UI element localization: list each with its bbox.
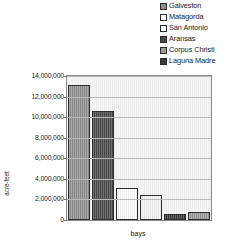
gridline bbox=[67, 117, 211, 118]
legend-swatch-icon bbox=[160, 14, 167, 21]
bar-texture bbox=[189, 213, 209, 219]
y-axis-tick-label: 10,000,000 bbox=[10, 113, 64, 120]
y-axis-tick-mark bbox=[64, 179, 67, 180]
gridline bbox=[67, 76, 211, 77]
legend-label: Galveston bbox=[169, 2, 201, 10]
gridline bbox=[67, 199, 211, 200]
bar[interactable] bbox=[92, 111, 114, 220]
legend-item[interactable]: San Antonio bbox=[160, 23, 239, 33]
y-axis-tick-mark bbox=[64, 97, 67, 98]
bar[interactable] bbox=[188, 212, 210, 220]
legend-label: Corpus Christi bbox=[169, 46, 214, 54]
y-axis-tick-mark bbox=[64, 220, 67, 221]
y-axis-tick-label: 2,000,000 bbox=[10, 195, 64, 202]
gridline bbox=[67, 138, 211, 139]
y-axis-tick-label: 14,000,000 bbox=[10, 72, 64, 79]
plot-wrapper: acre-feet 02,000,0004,000,0006,000,0008,… bbox=[0, 60, 239, 249]
y-axis-tick-mark bbox=[64, 76, 67, 77]
bar-texture bbox=[93, 112, 113, 219]
legend-swatch-icon bbox=[160, 47, 167, 54]
legend-item[interactable]: Corpus Christi bbox=[160, 45, 239, 55]
legend-label: Matagorda bbox=[169, 13, 203, 21]
bar-chart: GalvestonMatagordaSan AntonioAransasCorp… bbox=[0, 0, 239, 249]
legend-label: Aransas bbox=[169, 35, 195, 43]
chart-legend: GalvestonMatagordaSan AntonioAransasCorp… bbox=[160, 1, 239, 66]
legend-label: San Antonio bbox=[169, 24, 208, 32]
bar-series-group bbox=[67, 76, 211, 220]
legend-swatch-icon bbox=[160, 36, 167, 43]
bar[interactable] bbox=[164, 214, 186, 220]
x-axis-title: bays bbox=[66, 230, 210, 237]
bar[interactable] bbox=[116, 188, 138, 220]
gridline bbox=[67, 179, 211, 180]
y-axis-tick-mark bbox=[64, 158, 67, 159]
plot-area bbox=[66, 75, 212, 221]
y-axis-tick-label: 4,000,000 bbox=[10, 174, 64, 181]
gridline bbox=[67, 158, 211, 159]
y-axis-tick-label: 0 bbox=[10, 216, 64, 223]
y-axis-tick-labels: 02,000,0004,000,0006,000,0008,000,00010,… bbox=[10, 69, 64, 217]
legend-item[interactable]: Matagorda bbox=[160, 12, 239, 22]
bar-texture bbox=[165, 215, 185, 219]
y-axis-tick-label: 12,000,000 bbox=[10, 92, 64, 99]
bar-texture bbox=[117, 189, 137, 219]
y-axis-tick-label: 8,000,000 bbox=[10, 133, 64, 140]
y-axis-title: acre-feet bbox=[3, 162, 10, 206]
legend-item[interactable]: Aransas bbox=[160, 34, 239, 44]
y-axis-tick-mark bbox=[64, 199, 67, 200]
y-axis-tick-mark bbox=[64, 117, 67, 118]
legend-swatch-icon bbox=[160, 3, 167, 10]
y-axis-tick-label: 6,000,000 bbox=[10, 154, 64, 161]
y-axis-tick-mark bbox=[64, 138, 67, 139]
legend-item[interactable]: Galveston bbox=[160, 1, 239, 11]
gridline bbox=[67, 97, 211, 98]
legend-swatch-icon bbox=[160, 25, 167, 32]
